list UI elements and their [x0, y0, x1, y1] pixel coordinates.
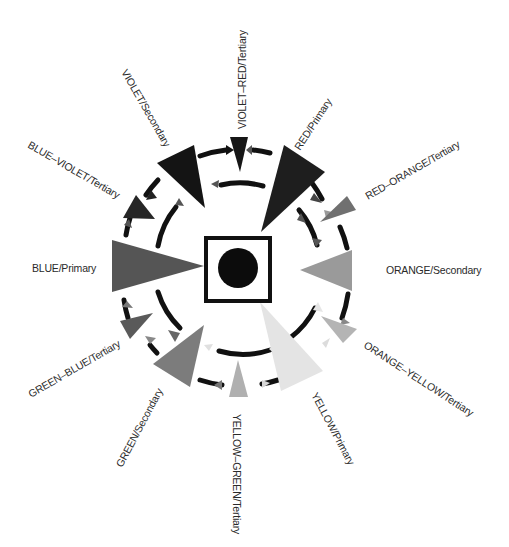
color-wheel-diagram: VIOLET–RED/Tertiary RED/Primary RED–ORAN… [0, 0, 509, 547]
label-blue-violet: BLUE–VIOLET/Tertiary [26, 138, 123, 201]
label-green: GREEN/Secondary [113, 385, 165, 469]
label-violet-red: VIOLET–RED/Tertiary [236, 29, 248, 129]
label-yellow-green: YELLOW–GREEN/Tertiary [231, 414, 243, 535]
label-yellow: YELLOW/Primary [309, 390, 358, 467]
triangle-orange [300, 250, 352, 291]
triangle-red-orange [320, 196, 356, 222]
label-violet: VIOLET/Secondary [119, 67, 173, 149]
label-orange-yellow: ORANGE–YELLOW/Tertiary [362, 339, 477, 419]
triangle-orange-yellow [321, 316, 357, 343]
label-blue: BLUE/Primary [32, 262, 97, 274]
label-red: RED/Primary [292, 95, 335, 152]
label-green-blue: GREEN–BLUE/Tertiary [26, 337, 123, 400]
triangle-yellow-green [229, 360, 248, 397]
label-orange: ORANGE/Secondary [386, 264, 482, 276]
label-red-orange: RED–ORANGE/Tertiary [363, 137, 463, 201]
triangle-violet [157, 145, 205, 208]
triangle-green-blue [120, 313, 153, 339]
triangle-violet-red [230, 137, 248, 172]
center-mark [206, 238, 270, 301]
